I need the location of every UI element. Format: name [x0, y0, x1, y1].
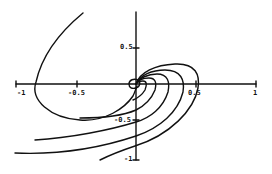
x-tick-label: -1	[17, 90, 25, 97]
phase-plot	[0, 0, 272, 174]
x-tick-label: -0.5	[68, 90, 85, 97]
curve-2	[15, 70, 183, 153]
x-tick-label: 0.5	[188, 90, 201, 97]
y-tick-label: -1	[124, 156, 132, 163]
x-tick-label: 1	[253, 90, 257, 97]
y-tick-label: -0.5	[114, 117, 131, 124]
y-tick-label: 0.5	[120, 44, 133, 51]
curve-outer-left	[35, 13, 137, 120]
